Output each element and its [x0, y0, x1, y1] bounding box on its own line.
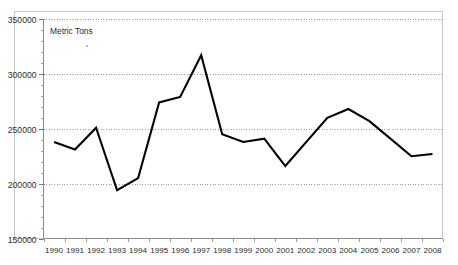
x-axis-tick-label: 2008 — [423, 246, 442, 255]
horizontal-gridlines — [44, 20, 444, 185]
series-line-metric-tons — [54, 55, 432, 190]
scan-speck — [86, 45, 88, 47]
chart-canvas: 150000200000250000300000350000 199019911… — [0, 0, 458, 265]
x-axis-tick-label: 1999 — [234, 246, 253, 255]
x-axis-tick-label: 2000 — [255, 246, 274, 255]
series-label: Metric Tons — [50, 26, 93, 36]
x-axis-tick-label: 2002 — [297, 246, 316, 255]
y-axis-tick-label: 200000 — [8, 180, 37, 190]
x-axis-tick-label: 1995 — [150, 246, 169, 255]
x-axis-ticks — [45, 239, 444, 243]
x-axis-tick-label: 2004 — [339, 246, 358, 255]
x-axis-tick-label: 1996 — [171, 246, 190, 255]
line-chart: 150000200000250000300000350000 199019911… — [0, 0, 458, 265]
x-axis-tick-label: 1990 — [45, 246, 64, 255]
x-axis-tick-label: 1997 — [192, 246, 211, 255]
x-axis-tick-label: 1998 — [213, 246, 232, 255]
chart-frame — [15, 12, 443, 239]
x-axis-tick-labels: 1990199119921993199419951996199719981999… — [45, 246, 442, 255]
x-axis-tick-label: 2003 — [318, 246, 337, 255]
y-axis-tick-label: 150000 — [8, 235, 37, 245]
x-axis-tick-label: 2001 — [276, 246, 295, 255]
x-axis-tick-label: 1993 — [108, 246, 127, 255]
y-axis-tick-label: 250000 — [8, 125, 37, 135]
y-axis-tick-label: 300000 — [8, 70, 37, 80]
x-axis-tick-label: 2005 — [360, 246, 379, 255]
x-axis-tick-label: 1994 — [129, 246, 148, 255]
x-axis-tick-label: 2006 — [381, 246, 400, 255]
x-axis-tick-label: 1991 — [66, 246, 85, 255]
y-axis-tick-label: 350000 — [8, 15, 37, 25]
x-axis-tick-label: 2007 — [402, 246, 421, 255]
x-axis-tick-label: 1992 — [87, 246, 106, 255]
y-axis-tick-labels: 150000200000250000300000350000 — [8, 15, 37, 245]
